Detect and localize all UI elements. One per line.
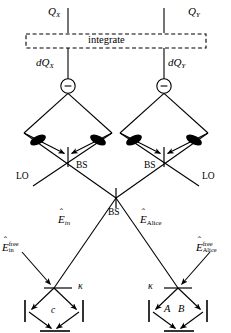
photodiode-right-b xyxy=(184,132,203,147)
optics-schematic-figure: QX QY integrate dQX dQY BS BS LO LO BS E… xyxy=(0,0,231,333)
photodiode-right-a xyxy=(124,132,143,147)
right-loop-edge-ul xyxy=(120,93,164,133)
left-cavity-arm-ll xyxy=(29,312,52,329)
label-field-e-in: Ein xyxy=(58,214,70,225)
label-field-e-in-free: Efreein xyxy=(2,240,19,253)
left-free-input-beam xyxy=(22,252,51,285)
photodiode-left-b xyxy=(88,132,107,147)
label-charge-x: QX xyxy=(48,6,60,17)
label-charge-y: QY xyxy=(188,6,200,17)
label-right-cavity-mode-b: B xyxy=(178,304,184,315)
label-right-cavity-mode-a: A xyxy=(164,304,170,315)
left-cavity-arm-ur xyxy=(54,288,77,310)
label-left-kappa: κ xyxy=(78,281,83,291)
label-field-e-alice-free: EfreeAlice xyxy=(196,240,217,253)
label-dq-x: dQX xyxy=(36,57,54,68)
label-right-lo: LO xyxy=(202,172,215,182)
schematic-vector-layer xyxy=(0,0,231,333)
label-right-bs: BS xyxy=(144,161,156,171)
label-dq-y: dQY xyxy=(168,57,185,68)
label-left-cavity-mode: c xyxy=(51,306,55,316)
center-e-alice-beam xyxy=(116,198,178,288)
photodiode-group xyxy=(28,132,203,147)
label-field-e-alice: EAlice xyxy=(140,214,162,225)
label-right-kappa: κ xyxy=(148,281,153,291)
photodiode-left-a xyxy=(28,132,47,147)
label-left-bs: BS xyxy=(76,161,88,171)
right-free-input-beam xyxy=(182,252,211,285)
label-left-lo: LO xyxy=(16,172,29,182)
label-integrate: integrate xyxy=(88,35,125,46)
center-e-in-beam xyxy=(54,198,116,288)
left-loop-edge-ul xyxy=(24,93,68,133)
left-loop-edge-ur xyxy=(68,93,112,133)
right-loop-edge-ur xyxy=(164,93,208,133)
label-center-bs: BS xyxy=(108,208,120,218)
left-cavity-arm-lr xyxy=(57,312,80,329)
